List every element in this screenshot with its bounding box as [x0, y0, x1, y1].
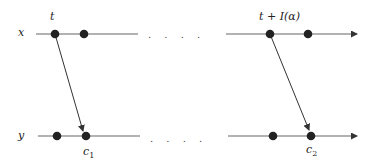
event-dot-x-send-2 — [266, 30, 275, 39]
message-arrow-1 — [55, 34, 83, 131]
event-dot-y-3 — [269, 132, 278, 141]
event-label-c1: c1 — [83, 146, 94, 160]
c1-subscript: 1 — [89, 151, 94, 160]
event-dot-y-recv-2 — [307, 132, 316, 141]
event-label-t-plus-i-alpha: t + I(α) — [259, 11, 300, 22]
message-arrow-2 — [270, 34, 309, 130]
event-dot-x-send-1 — [51, 30, 60, 39]
event-dot-y-1 — [53, 132, 62, 141]
ellipsis-y: . . . . — [150, 134, 207, 144]
c2-subscript: 2 — [312, 149, 317, 158]
event-dot-y-recv-1 — [82, 132, 91, 141]
process-label-y: y — [18, 130, 24, 141]
process-label-x: x — [18, 27, 24, 38]
event-dot-x-2 — [80, 30, 89, 39]
event-dot-x-4 — [304, 30, 313, 39]
message-passing-diagram: x y . . . . . . . . t t + I(α) c1 c2 — [0, 0, 375, 163]
ellipsis-x: . . . . — [148, 30, 205, 40]
event-label-c2: c2 — [306, 144, 317, 158]
event-label-t: t — [50, 11, 54, 22]
